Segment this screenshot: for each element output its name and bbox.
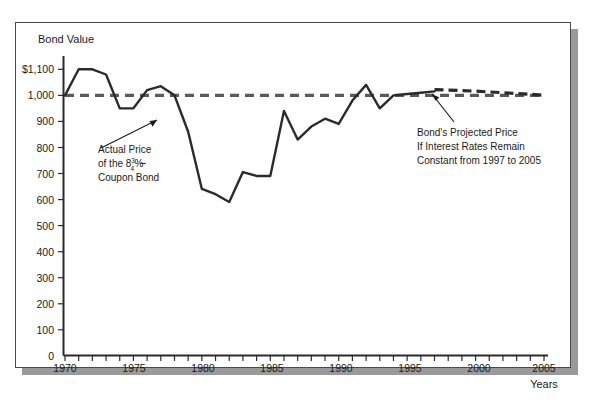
actual-price-annotation-text: Actual Price of the 834% Coupon Bond [98,144,159,183]
projected-price-line2: If Interest Rates Remain [417,141,525,152]
x-tick-label-1995: 1995 [398,362,422,374]
x-tick-label-1985: 1985 [260,362,284,374]
projected-price-annotation-text: Bond's Projected Price If Interest Rates… [417,127,541,166]
projected-price-annotation-arrow [432,94,454,122]
y-axis-tick-labels: $1,100 1,000 900 800 700 600 500 400 300… [22,63,54,361]
y-tick-label-600: 600 [36,194,54,206]
y-tick-label-400: 400 [36,246,54,258]
x-tick-label-1990: 1990 [329,362,353,374]
y-tick-label-700: 700 [36,168,54,180]
y-tick-label-100: 100 [36,324,54,336]
x-axis-tick-labels: 1970 1975 1980 1985 1990 1995 2000 2005 [53,362,556,374]
actual-price-line2: of the 834% [98,157,144,172]
x-tick-label-2000: 2000 [467,362,491,374]
x-tick-label-1970: 1970 [53,362,77,374]
actual-price-line2-prefix: of the 8 [98,158,132,169]
y-tick-label-300: 300 [36,272,54,284]
y-tick-label-0: 0 [48,350,54,362]
y-tick-label-200: 200 [36,298,54,310]
bond-value-line-chart: $1,100 1,000 900 800 700 600 500 400 300… [0,0,593,410]
chart-screenshot: $1,100 1,000 900 800 700 600 500 400 300… [0,0,593,410]
y-tick-label-1000: 1,000 [28,89,54,101]
x-tick-label-1980: 1980 [191,362,215,374]
y-tick-label-1100: $1,100 [22,63,54,75]
x-tick-label-2005: 2005 [532,362,556,374]
actual-price-line3: Coupon Bond [98,172,159,183]
y-tick-label-800: 800 [36,142,54,154]
y-tick-label-500: 500 [36,220,54,232]
x-axis-title: Years [530,378,558,390]
projected-price-line3: Constant from 1997 to 2005 [417,155,541,166]
projected-price-line1: Bond's Projected Price [417,127,518,138]
y-tick-label-900: 900 [36,115,54,127]
x-tick-label-1975: 1975 [122,362,146,374]
y-axis-title: Bond Value [38,33,94,45]
actual-price-line1: Actual Price [98,144,152,155]
